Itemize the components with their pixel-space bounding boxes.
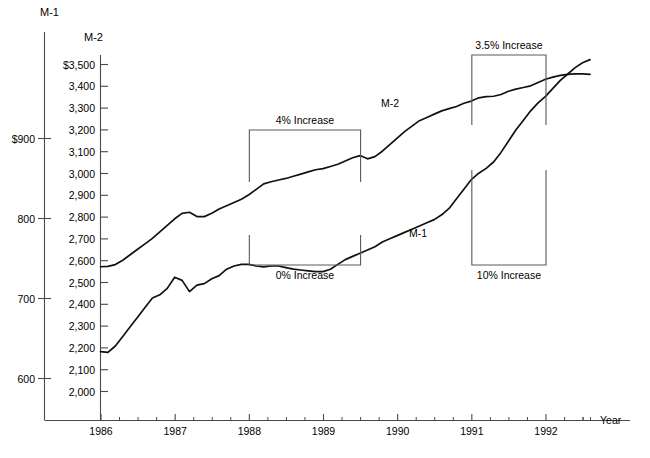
x-tick-label-year: 1991 [460,425,484,437]
annotation-label-m1-0pct: 0% Increase [276,269,335,281]
series-inline-label-m1: M-1 [409,227,427,239]
axis-titles: M-1 M-2 [40,6,103,43]
y-axis-m2-ticks: $3,5003,4003,3003,2003,1003,0002,9002,80… [63,59,108,398]
x-axis-tick-labels: 1986198719881989199019911992 [89,425,558,437]
y-tick-label-m2: 2,300 [69,320,95,332]
series-line-m1 [101,60,591,353]
money-supply-line-chart: M-1 M-2 $900800700600 $3,5003,4003,3003,… [0,0,650,458]
y-tick-label-m2: 2,400 [69,298,95,310]
annotation-bracket-m1-10pct [472,170,546,265]
y-tick-label-m2: 2,700 [69,233,95,245]
annotation-bracket-m2-4pct [249,130,360,182]
y-tick-label-m2: 3,400 [69,80,95,92]
x-tick-label-year: 1990 [386,425,410,437]
y-tick-label-m2: 2,100 [69,364,95,376]
x-tick-label-year: 1986 [89,425,113,437]
y-tick-label-m2: 2,000 [69,386,95,398]
y-tick-label-m1: 800 [17,213,35,225]
y-axis-m1-ticks: $900800700600 [12,133,51,385]
y-tick-label-m2: 3,000 [69,168,95,180]
x-tick-label-year: 1987 [163,425,187,437]
y-tick-label-m2: 2,500 [69,277,95,289]
y-tick-label-m2: 3,100 [69,146,95,158]
annotation-label-m1-10pct: 10% Increase [477,269,541,281]
y-tick-label-m1: 700 [17,293,35,305]
y-tick-label-m1: 600 [17,373,35,385]
axis-title-m1: M-1 [40,6,59,18]
annotation-bracket-m2-35pct [472,55,546,125]
chart-container: M-1 M-2 $900800700600 $3,5003,4003,3003,… [0,0,650,458]
y-tick-label-m2: 2,900 [69,189,95,201]
y-tick-label-m2: 2,600 [69,255,95,267]
x-tick-label-year: 1989 [312,425,336,437]
series-line-m2 [101,74,591,267]
y-tick-label-m2: 2,800 [69,211,95,223]
y-tick-label-m1: $900 [12,133,36,145]
annotation-label-m2-35pct: 3.5% Increase [475,39,542,51]
series-inline-label-m2: M-2 [381,97,399,109]
annotation-label-m2-4pct: 4% Increase [276,114,335,126]
y-tick-label-m2: 3,200 [69,124,95,136]
annotation-brackets: 4% Increase0% Increase3.5% Increase10% I… [249,39,546,281]
axis-title-m2: M-2 [84,31,103,43]
x-tick-label-year: 1992 [534,425,558,437]
y-tick-label-m2: $3,500 [63,59,95,71]
y-tick-label-m2: 3,300 [69,102,95,114]
y-tick-label-m2: 2,200 [69,342,95,354]
x-axis-title-year: Year [600,414,622,426]
x-tick-label-year: 1988 [238,425,262,437]
